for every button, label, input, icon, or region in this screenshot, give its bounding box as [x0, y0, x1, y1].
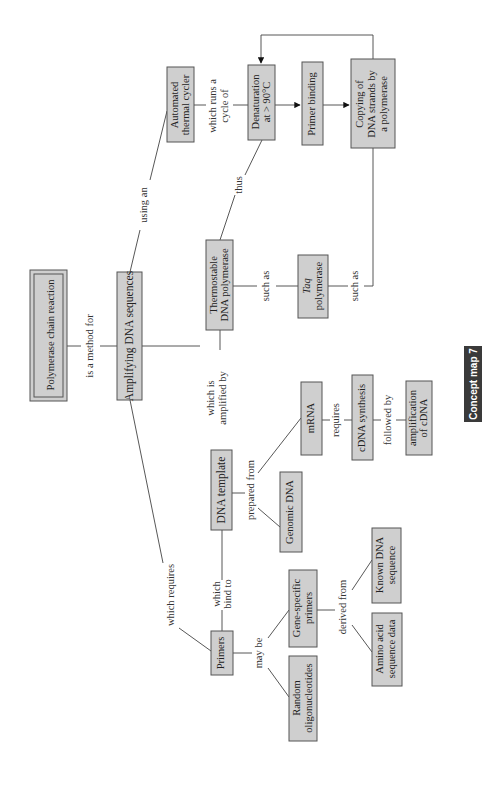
node-amplifying-label: Amplifying DNA sequences — [123, 270, 136, 401]
label-is-a-method-for: is a method for — [84, 314, 95, 378]
node-dna-template: DNA template — [211, 450, 232, 530]
node-pcr: Polymerase chain reaction — [30, 270, 67, 401]
node-genomic-dna: Genomic DNA — [280, 472, 302, 552]
label-requires: requires — [330, 403, 341, 437]
label-which-runs-line1: which runs a — [207, 79, 218, 133]
edge-maybe-gene — [268, 610, 289, 638]
node-denaturation-line1: Denaturation — [250, 74, 261, 130]
nodes: Polymerase chain reaction Amplifying DNA… — [30, 59, 432, 741]
label-which-bind-to-line2: bind to — [222, 579, 233, 608]
node-copying-line1: Copying of — [354, 80, 365, 128]
label-prepared-from: prepared from — [245, 460, 256, 520]
label-which-bind-to-line1: which — [211, 580, 222, 606]
label-using-an: using an — [138, 187, 149, 223]
node-cdna-synthesis: cDNA synthesis — [352, 375, 373, 460]
node-thermal-cycler-line1: Automated — [169, 81, 180, 128]
node-amino-acid: Amino acid sequence data — [372, 613, 402, 686]
badge-label: Concept map 7 — [468, 348, 479, 420]
label-which-is-amplified-line1: which is — [205, 380, 216, 415]
node-primers-label: Primers — [215, 637, 226, 670]
node-copying-line2: DNA strands by — [366, 69, 377, 137]
label-may-be: may be — [253, 637, 264, 668]
node-known-dna: Known DNA sequence — [372, 528, 401, 603]
node-amplification-cdna-line2: of cDNA — [418, 398, 429, 437]
label-which-is-amplified-line2: amplified by — [217, 371, 228, 425]
edge-amplifying-cycler — [130, 230, 140, 272]
node-primer-binding: Primer binding — [302, 62, 323, 145]
label-followed-by: followed by — [382, 394, 393, 445]
node-thermal-cycler: Automated thermal cycler — [167, 67, 194, 142]
node-pcr-label: Polymerase chain reaction — [45, 279, 56, 391]
node-dna-template-label: DNA template — [215, 457, 228, 524]
label-thus: thus — [233, 176, 244, 194]
node-amplifying: Amplifying DNA sequences — [117, 270, 142, 401]
node-primers: Primers — [211, 631, 233, 675]
node-thermostable: Thermostable DNA polymerase — [206, 240, 233, 330]
label-such-as-1: such as — [260, 271, 271, 302]
node-copying: Copying of DNA strands by a polymerase — [351, 59, 395, 148]
label-such-as-2: such as — [349, 271, 360, 302]
node-amplification-cdna-line1: amplification — [407, 389, 418, 446]
edge-maybe-random — [268, 668, 289, 697]
node-amino-acid-line2: sequence data — [386, 619, 397, 678]
node-cdna-synthesis-label: cDNA synthesis — [356, 384, 367, 452]
edge-derived-known — [352, 560, 372, 590]
label-derived-from: derived from — [337, 580, 348, 635]
concept-map: Polymerase chain reaction Amplifying DNA… — [0, 0, 489, 800]
node-known-dna-line1: Known DNA — [374, 536, 385, 593]
node-mrna: mRNA — [301, 382, 322, 455]
node-known-dna-line2: sequence — [386, 545, 397, 584]
node-amino-acid-line1: Amino acid — [374, 624, 385, 674]
node-taq-line2: polymerase — [313, 261, 324, 310]
node-thermal-cycler-line2: thermal cycler — [180, 74, 191, 135]
node-random-oligos-line2: oligonucleotides — [303, 663, 314, 732]
node-thermostable-line2: DNA polymerase — [219, 248, 230, 322]
edge-prepared-mrna — [258, 418, 301, 473]
node-copying-line3: a polymerase — [378, 76, 389, 132]
node-gene-specific: Gene-specific primers — [289, 570, 317, 647]
node-amplification-cdna: amplification of cDNA — [406, 381, 432, 455]
label-which-runs-line2: cycle of — [219, 89, 230, 123]
node-denaturation-line2: at > 90°C — [261, 82, 272, 122]
edge-prepared-genomic — [258, 508, 280, 527]
concept-map-badge: Concept map 7 — [464, 346, 482, 422]
node-taq-line1: Taq — [301, 278, 312, 293]
node-denaturation: Denaturation at > 90°C — [248, 65, 275, 140]
node-taq: Taq polymerase — [298, 255, 328, 318]
node-random-oligos: Random oligonucleotides — [289, 656, 317, 741]
node-thermostable-line1: Thermostable — [208, 256, 219, 314]
edge-amplifying-primers — [130, 400, 163, 563]
label-which-requires: which requires — [165, 564, 176, 626]
node-mrna-label: mRNA — [305, 402, 316, 433]
node-gene-specific-line1: Gene-specific — [291, 579, 302, 638]
node-primer-binding-label: Primer binding — [306, 72, 317, 136]
node-random-oligos-line1: Random — [291, 680, 302, 716]
node-gene-specific-line2: primers — [303, 592, 314, 624]
node-genomic-dna-label: Genomic DNA — [284, 480, 295, 544]
edge-thermostable-denaturation — [220, 195, 235, 240]
edge-derived-amino — [352, 625, 372, 652]
